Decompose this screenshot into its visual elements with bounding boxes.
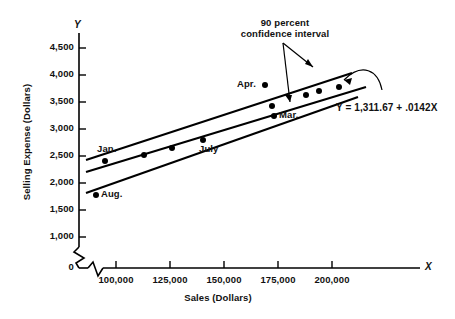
y-axis-break-icon [74, 247, 84, 268]
y-tick-label-1500: 1,500 [36, 204, 74, 215]
x-tick-label-200000: 200,000 [302, 275, 362, 286]
data-label-aug: Aug. [101, 189, 123, 200]
data-point-4 [169, 145, 175, 151]
confidence-arrowhead-upper [305, 59, 313, 67]
regression-equation-annotation: Y = 1,311.67 + .0142X [336, 102, 437, 114]
confidence-arrowhead-lower [285, 95, 292, 102]
y-tick-label-2500: 2,500 [36, 150, 74, 161]
data-point-aug [93, 192, 99, 198]
y-axis-letter: Y [74, 19, 81, 31]
regression-line [86, 87, 366, 172]
y-tick-label-2000: 2,000 [36, 177, 74, 188]
y-tick-marks [79, 48, 86, 237]
y-tick-label-3000: 3,000 [36, 123, 74, 134]
data-label-july: July [199, 144, 218, 155]
data-label-mar: Mar. [279, 110, 298, 121]
x-tick-label-150000: 150,000 [194, 275, 254, 286]
x-tick-marks [116, 261, 332, 268]
x-tick-label-175000: 175,000 [248, 275, 308, 286]
data-point-apr [262, 82, 268, 88]
x-tick-label-100000: 100,000 [86, 275, 146, 286]
data-point-7 [269, 103, 275, 109]
y-tick-label-4000: 4,000 [36, 69, 74, 80]
data-point-11 [336, 84, 342, 90]
y-tick-label-3500: 3,500 [36, 96, 74, 107]
x-axis-title: Sales (Dollars) [148, 293, 288, 304]
y-axis-title: Selling Expense (Dollars) [22, 52, 33, 232]
data-label-apr: Apr. [237, 79, 256, 90]
data-point-10 [316, 88, 322, 94]
x-axis-letter: X [425, 261, 432, 273]
data-point-9 [303, 92, 309, 98]
confidence-interval-annotation: 90 percent confidence interval [226, 17, 344, 40]
data-label-jan: Jan. [97, 144, 116, 155]
confidence-lower-line [86, 97, 358, 193]
x-tick-label-125000: 125,000 [140, 275, 200, 286]
y-tick-label-0: 0 [36, 262, 74, 273]
data-point-jan [102, 158, 108, 164]
y-tick-label-4500: 4,500 [36, 42, 74, 53]
confidence-annotation-line1: 90 percent [261, 17, 310, 28]
data-point-3 [141, 152, 147, 158]
regression-chart-figure: 4,500 4,000 3,500 3,000 2,500 2,000 1,50… [0, 0, 455, 319]
y-tick-label-1000: 1,000 [36, 231, 74, 242]
data-point-mar [271, 113, 277, 119]
confidence-annotation-line2: confidence interval [241, 28, 329, 39]
data-points [93, 82, 342, 198]
